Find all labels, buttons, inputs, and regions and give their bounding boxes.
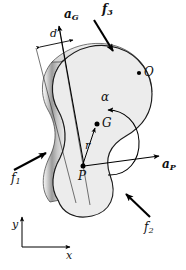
dimension-d-arrow [40,40,73,47]
diagram-svg [0,0,186,270]
label-point-g: G [102,117,112,129]
coordinate-axes [22,217,70,247]
vector-f1 [14,153,46,170]
label-a-g: aG [64,8,79,21]
label-f2: f2 [144,221,154,234]
label-alpha: α [101,91,109,103]
label-axis-y: y [12,219,18,230]
point-g-marker [95,122,100,127]
label-f1: f1 [11,172,21,185]
label-a-p: aP [162,158,176,171]
label-r: r [85,140,90,151]
label-point-p: P [78,170,86,182]
label-axis-x: x [66,250,72,261]
vector-f2 [126,194,150,217]
point-p-marker [81,164,86,169]
label-d: d [50,28,57,39]
label-point-o: O [144,66,154,78]
label-f3: f3 [102,3,113,16]
figure-canvas: aG f3 d O α G r P aP f1 f2 y x [0,0,186,270]
point-o-marker [137,71,141,75]
